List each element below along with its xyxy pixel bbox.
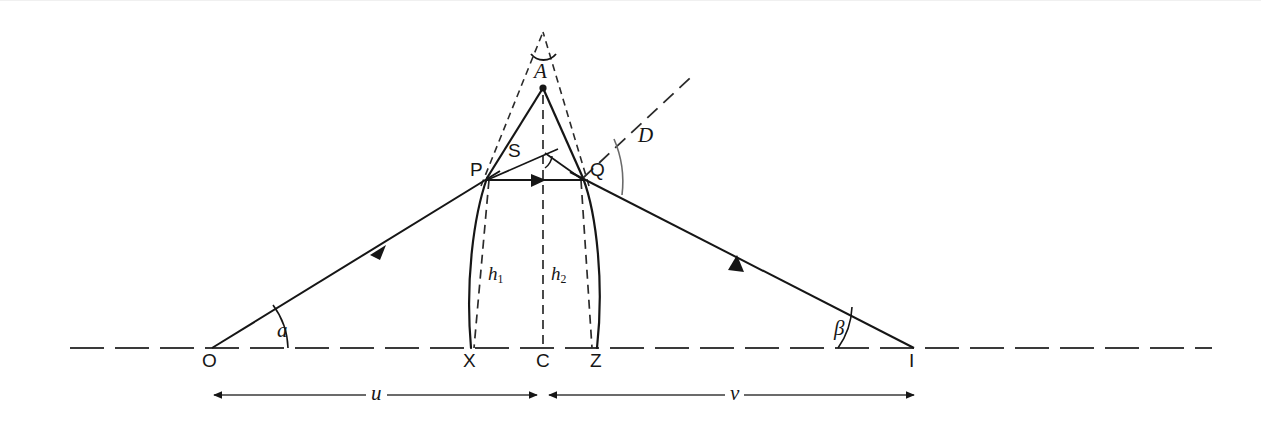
lens-right-surface — [583, 178, 600, 348]
label-angle-d: D — [638, 125, 653, 146]
label-angle-beta: β — [834, 318, 844, 339]
prism-face-left — [487, 88, 543, 178]
label-height-h2-sub: 2 — [561, 273, 567, 286]
label-point-c: C — [536, 351, 550, 370]
lens-left-surface — [469, 178, 487, 348]
diagram-canvas — [0, 0, 1261, 423]
label-angle-alpha: a — [277, 320, 288, 341]
incident-ray-arrowhead — [370, 245, 386, 260]
label-point-x: X — [463, 351, 476, 370]
h1-dashed-line — [474, 180, 489, 348]
incident-ray-line — [212, 171, 500, 348]
label-point-q: Q — [590, 160, 605, 179]
label-angle-a: A — [534, 61, 547, 82]
label-distance-u: u — [366, 383, 387, 404]
label-point-z: Z — [590, 351, 602, 370]
prism-solid-faces — [487, 88, 583, 178]
emergent-ray-line — [570, 172, 914, 348]
emergent-ray-arrowhead — [728, 255, 744, 272]
incident-ray — [212, 171, 500, 348]
label-point-o: O — [202, 351, 217, 370]
internal-ray — [487, 174, 583, 187]
label-height-h2: h2 — [551, 264, 566, 286]
label-height-h1-sub: 1 — [498, 273, 504, 286]
label-point-s: S — [508, 141, 521, 160]
label-distance-v: v — [725, 383, 744, 404]
label-height-h2-base: h — [551, 263, 561, 284]
emergent-ray — [570, 172, 914, 348]
label-point-i: I — [909, 351, 914, 370]
label-height-h1-base: h — [488, 263, 498, 284]
label-point-p: P — [470, 160, 483, 179]
apex-vertex-dot — [539, 84, 546, 91]
prism-edge-left-dashed — [481, 32, 543, 186]
label-height-h1: h1 — [488, 264, 503, 286]
optics-lens-diagram: O X C Z I P Q S A D a β h1 h2 u v — [0, 0, 1261, 423]
